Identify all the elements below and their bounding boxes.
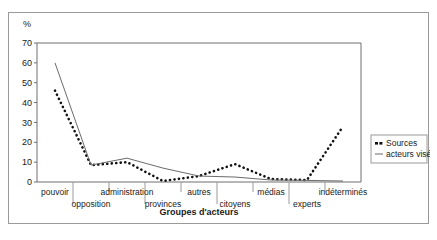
y-axis-tick-label: 40 bbox=[22, 98, 32, 108]
y-axis-tick-label: 20 bbox=[22, 137, 32, 147]
y-axis-tick-label: 30 bbox=[22, 118, 32, 128]
legend-item-label[interactable]: Sources bbox=[386, 138, 417, 148]
x-axis-title: Groupes d'acteurs bbox=[159, 207, 238, 217]
figure-frame: % 010203040506070 pouvoiroppositionadmin… bbox=[8, 12, 429, 224]
x-axis-category-label: administration bbox=[101, 187, 154, 197]
legend-marker-dotted bbox=[375, 142, 378, 145]
y-axis-tick-label: 60 bbox=[22, 58, 32, 68]
y-axis-tick-label: 70 bbox=[22, 38, 32, 48]
chart-legend[interactable]: Sourcesacteurs visés bbox=[371, 135, 430, 163]
x-axis-category-labels: pouvoiroppositionadministrationprovinces… bbox=[41, 187, 367, 209]
series-line-sources bbox=[55, 91, 343, 181]
x-axis-category-label: pouvoir bbox=[41, 187, 69, 197]
x-axis-category-label: autres bbox=[187, 187, 211, 197]
x-axis-category-label: indéterminés bbox=[319, 187, 368, 197]
y-axis-tick-label: 0 bbox=[27, 177, 32, 187]
x-axis-category-label: experts bbox=[293, 199, 321, 209]
y-axis-tick-label: 10 bbox=[22, 157, 32, 167]
y-axis-ticks: 010203040506070 bbox=[22, 38, 37, 187]
x-axis-category-label: opposition bbox=[72, 199, 111, 209]
x-axis-category-label: médias bbox=[257, 187, 284, 197]
line-chart: 010203040506070 pouvoiroppositionadminis… bbox=[9, 13, 430, 225]
legend-item-label[interactable]: acteurs visés bbox=[386, 149, 430, 159]
chart-axes bbox=[37, 43, 361, 182]
legend-marker-dotted bbox=[379, 142, 382, 145]
chart-canvas: 010203040506070 pouvoiroppositionadminis… bbox=[9, 13, 430, 225]
series-line-acteurs-visés bbox=[55, 63, 343, 181]
data-series bbox=[55, 63, 343, 181]
y-axis-tick-label: 50 bbox=[22, 78, 32, 88]
